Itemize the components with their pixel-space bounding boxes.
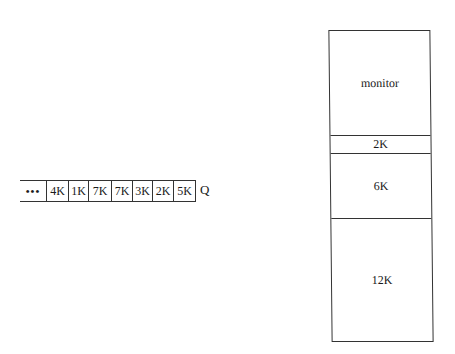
memory-segment-2k: 2K	[330, 135, 430, 153]
queue-job: 1K	[69, 181, 89, 201]
segment-label: 6K	[374, 179, 389, 194]
queue-job: 4K	[47, 181, 69, 201]
memory-map: monitor 2K 6K 12K	[328, 30, 433, 342]
memory-segment-monitor: monitor	[329, 31, 430, 135]
segment-label: 12K	[372, 273, 393, 288]
memory-segment-12k: 12K	[331, 218, 432, 341]
queue-job: 7K	[89, 181, 112, 201]
segment-label: 2K	[373, 137, 388, 152]
queue-job: 3K	[133, 181, 153, 201]
memory-segment-6k: 6K	[331, 153, 432, 218]
queue-job: 5K	[174, 181, 196, 201]
queue-label: Q	[200, 180, 209, 200]
queue-job: 7K	[112, 181, 133, 201]
job-queue: ••• 4K 1K 7K 7K 3K 2K 5K	[20, 180, 196, 202]
queue-ellipsis: •••	[20, 181, 47, 201]
segment-label: monitor	[361, 76, 399, 91]
queue-job: 2K	[153, 181, 174, 201]
